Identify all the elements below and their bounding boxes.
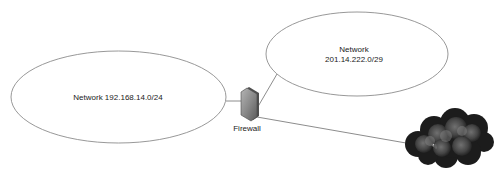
network-lan[interactable]: Network 192.168.14.0/24 (11, 51, 226, 143)
network-dmz[interactable]: Network 201.14.222.0/29 (266, 12, 448, 96)
firewall-label: Firewall (233, 124, 261, 133)
network-lan-label: Network 192.168.14.0/24 (73, 93, 163, 102)
network-diagram: Network 192.168.14.0/24 Network 201.14.2… (0, 0, 499, 175)
edge-firewall-internet (257, 117, 406, 143)
firewall-icon (241, 87, 259, 121)
network-dmz-label-line2: 201.14.222.0/29 (325, 55, 383, 64)
firewall-node[interactable]: Firewall (233, 87, 261, 133)
network-dmz-ellipse (266, 12, 448, 96)
cloud-icon (405, 108, 494, 168)
internet-cloud[interactable] (405, 108, 494, 168)
network-dmz-label-line1: Network (339, 45, 369, 54)
edge-firewall-dmz (256, 74, 277, 110)
